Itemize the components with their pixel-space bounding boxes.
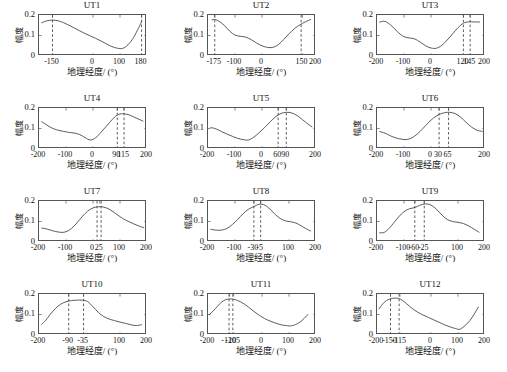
plot-area (376, 200, 484, 241)
x-tick-label: -200 (200, 336, 215, 345)
data-curve (42, 300, 142, 326)
y-tick-label: 0.2 (183, 196, 204, 205)
x-tick-label: 100 (113, 57, 125, 66)
subplot-ut8: UT8幅度00.10.2-200-100-30-5100200地理经度/ (°) (169, 186, 338, 279)
subplot-ut10: UT10幅度00.10.2-200-90-35100200地理经度/ (°) (0, 279, 169, 372)
plot-area (38, 200, 146, 241)
x-tick-label: 60 (273, 150, 281, 159)
x-tick-label: -200 (200, 150, 215, 159)
y-tick-label: 0.2 (352, 103, 373, 112)
x-tick-label: 90 (281, 150, 289, 159)
plot-canvas (377, 294, 484, 334)
x-tick-label: 0 (428, 150, 432, 159)
subplot-title: UT2 (201, 0, 321, 11)
x-tick-label: -200 (31, 150, 46, 159)
x-tick-label: -25 (418, 243, 429, 252)
y-tick-label: 0.1 (183, 216, 204, 225)
x-tick-label: 200 (140, 336, 152, 345)
plot-canvas (208, 201, 315, 241)
y-tick-label: 0.2 (352, 10, 373, 19)
y-tick-label: 0.1 (183, 123, 204, 132)
x-axis-label: 地理经度/ (°) (405, 67, 455, 78)
x-axis-label: 地理经度/ (°) (236, 67, 286, 78)
plot-canvas (208, 294, 315, 334)
y-tick-label: 0.1 (14, 309, 35, 318)
x-tick-label: 180 (135, 57, 147, 66)
subplot-ut7: UT7幅度00.10.2-200-100025100200地理经度/ (°) (0, 186, 169, 279)
plot-area (207, 293, 315, 334)
plot-canvas (39, 15, 146, 55)
plot-area (38, 293, 146, 334)
x-tick-label: 200 (140, 243, 152, 252)
y-tick-label: 0.2 (183, 10, 204, 19)
x-tick-label: 30 (434, 150, 442, 159)
x-tick-label: 200 (478, 57, 490, 66)
x-tick-label: 200 (478, 150, 490, 159)
subplot-ut9: UT9幅度00.10.2-200-100-60-25100200地理经度/ (°… (338, 186, 507, 279)
data-curve (209, 299, 308, 326)
y-tick-label: 0.1 (14, 216, 35, 225)
x-tick-label: -105 (225, 336, 240, 345)
subplot-ut6: UT6幅度00.10.2-200-10003065200地理经度/ (°) (338, 93, 507, 186)
x-tick-label: -90 (62, 336, 73, 345)
plot-canvas (208, 15, 315, 55)
x-tick-label: 0 (259, 150, 263, 159)
y-tick-label: 0.2 (14, 103, 35, 112)
x-tick-label: 65 (444, 150, 452, 159)
y-tick-label: 0.1 (352, 30, 373, 39)
y-tick-label: 0.2 (183, 289, 204, 298)
x-tick-label: -200 (369, 150, 384, 159)
data-curve (379, 298, 478, 329)
subplot-ut12: UT12幅度00.10.2-200-150-1150100200地理经度/ (°… (338, 279, 507, 372)
plot-area (376, 293, 484, 334)
subplot-title: UT11 (201, 279, 321, 290)
x-tick-label: 25 (95, 243, 103, 252)
y-tick-label: 0.1 (14, 123, 35, 132)
plot-area (38, 107, 146, 148)
x-tick-label: -100 (227, 150, 242, 159)
plot-canvas (377, 15, 484, 55)
x-tick-label: -200 (369, 57, 384, 66)
x-tick-label: 100 (113, 243, 125, 252)
subplot-ut1: UT1幅度00.10.2-1500100180地理经度/ (°) (0, 0, 169, 93)
plot-area (376, 107, 484, 148)
x-axis-label: 地理经度/ (°) (405, 160, 455, 171)
x-tick-label: 100 (113, 336, 125, 345)
y-tick-label: 0.2 (14, 289, 35, 298)
x-tick-label: 100 (451, 336, 463, 345)
x-axis-label: 地理经度/ (°) (236, 160, 286, 171)
x-tick-label: -200 (200, 243, 215, 252)
x-tick-label: 100 (451, 243, 463, 252)
y-tick-label: 0.1 (352, 309, 373, 318)
x-axis-label: 地理经度/ (°) (236, 253, 286, 264)
x-axis-label: 地理经度/ (°) (67, 160, 117, 171)
plot-area (38, 14, 146, 55)
y-tick-label: 0.1 (183, 309, 204, 318)
subplot-title: UT3 (370, 0, 490, 11)
x-tick-label: 0 (259, 57, 263, 66)
x-tick-label: -100 (227, 57, 242, 66)
y-tick-label: 0.1 (14, 30, 35, 39)
x-axis-label: 地理经度/ (°) (236, 346, 286, 357)
x-tick-label: -200 (369, 243, 384, 252)
x-tick-label: -200 (31, 243, 46, 252)
data-curve (380, 204, 479, 233)
x-tick-label: 0 (90, 150, 94, 159)
plot-canvas (208, 108, 315, 148)
x-axis-label: 地理经度/ (°) (405, 253, 455, 264)
x-axis-label: 地理经度/ (°) (67, 253, 117, 264)
y-tick-label: 0.1 (352, 123, 373, 132)
y-tick-label: 0 (14, 51, 35, 60)
plot-canvas (39, 294, 146, 334)
x-tick-label: -200 (369, 336, 384, 345)
subplot-title: UT7 (32, 186, 152, 197)
x-tick-label: 100 (282, 243, 294, 252)
x-tick-label: 0 (428, 336, 432, 345)
x-tick-label: 200 (478, 336, 490, 345)
plot-area (207, 14, 315, 55)
data-curve (42, 207, 144, 233)
x-tick-label: -100 (58, 150, 73, 159)
x-tick-label: 145 (463, 57, 475, 66)
data-curve (380, 112, 483, 139)
x-tick-label: 150 (296, 57, 308, 66)
